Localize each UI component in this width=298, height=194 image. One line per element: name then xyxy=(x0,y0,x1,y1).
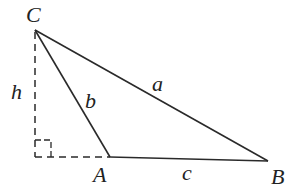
side-label-b: b xyxy=(85,88,96,113)
vertex-label-a: A xyxy=(91,162,107,187)
triangle-diagram: C A B a b c h xyxy=(0,0,298,194)
side-label-a: a xyxy=(152,71,163,96)
vertex-label-c: C xyxy=(26,2,41,27)
vertex-label-b: B xyxy=(271,164,284,189)
right-angle-marker xyxy=(35,140,51,157)
altitude-label-h: h xyxy=(11,79,22,104)
side-label-c: c xyxy=(182,160,192,185)
side-b-line xyxy=(35,30,110,157)
